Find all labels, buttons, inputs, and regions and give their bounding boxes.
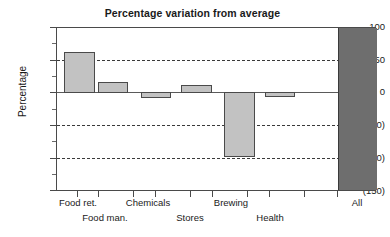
gridline-50	[57, 60, 375, 61]
bar-stores[interactable]	[181, 85, 212, 93]
x-label-stores: Stores	[150, 212, 230, 223]
chart-title: Percentage variation from average	[0, 7, 385, 19]
x-label-food-man: Food man.	[65, 212, 145, 223]
bar-health[interactable]	[265, 92, 295, 97]
x-label-health: Health	[230, 212, 310, 223]
bar-chemicals[interactable]	[141, 92, 171, 98]
bar-brewing[interactable]	[224, 92, 255, 157]
bar-all[interactable]	[338, 28, 377, 190]
bar-food-man[interactable]	[98, 82, 128, 93]
x-label-chemicals: Chemicals	[108, 197, 188, 208]
x-tick-mark-9	[304, 191, 305, 197]
plot-inner	[57, 28, 375, 190]
x-label-brewing: Brewing	[191, 197, 271, 208]
plot-area	[56, 27, 376, 191]
gridline-neg100	[57, 158, 375, 159]
y-axis-label: Percentage	[17, 42, 28, 142]
x-label-all: All	[317, 197, 390, 208]
gridline-neg50	[57, 125, 375, 126]
bar-food-ret[interactable]	[64, 52, 95, 93]
x-label-food-ret: Food ret.	[38, 197, 118, 208]
